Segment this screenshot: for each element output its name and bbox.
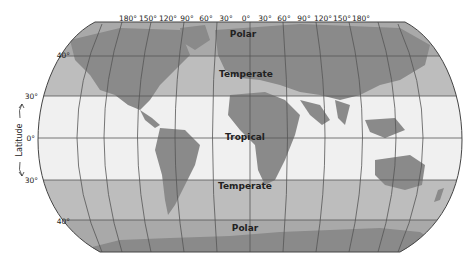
longitude-labels: 180° 150° 120° 90° 60° 30° 0° 30° 60° 90…: [119, 14, 370, 23]
svg-text:30°: 30°: [25, 92, 39, 101]
svg-text:90°: 90°: [180, 14, 194, 23]
svg-text:180°: 180°: [119, 14, 137, 23]
zone-label-temperate-north: Temperate: [219, 69, 273, 79]
svg-text:180°: 180°: [352, 14, 370, 23]
svg-text:120°: 120°: [314, 14, 332, 23]
svg-text:90°: 90°: [297, 14, 311, 23]
svg-text:30°: 30°: [219, 14, 233, 23]
zone-label-polar-north: Polar: [230, 29, 257, 39]
zone-label-temperate-south: Temperate: [218, 181, 272, 191]
svg-text:120°: 120°: [159, 14, 177, 23]
svg-text:40°: 40°: [57, 51, 71, 60]
arrow-up-icon: [19, 104, 24, 118]
latitude-axis-label: Latitude: [15, 123, 24, 156]
svg-text:150°: 150°: [333, 14, 351, 23]
svg-text:30°: 30°: [258, 14, 272, 23]
svg-text:60°: 60°: [277, 14, 291, 23]
svg-text:40°: 40°: [57, 217, 71, 226]
world-climate-map: 180° 150° 120° 90° 60° 30° 0° 30° 60° 90…: [0, 0, 472, 260]
svg-text:30°: 30°: [25, 176, 39, 185]
zone-label-polar-south: Polar: [232, 223, 259, 233]
svg-text:0°: 0°: [242, 14, 251, 23]
latitude-axis: Latitude: [15, 104, 24, 176]
svg-text:0°: 0°: [26, 134, 35, 143]
zone-label-tropical: Tropical: [225, 132, 265, 142]
svg-text:150°: 150°: [139, 14, 157, 23]
arrow-down-icon: [19, 162, 24, 176]
svg-text:60°: 60°: [199, 14, 213, 23]
